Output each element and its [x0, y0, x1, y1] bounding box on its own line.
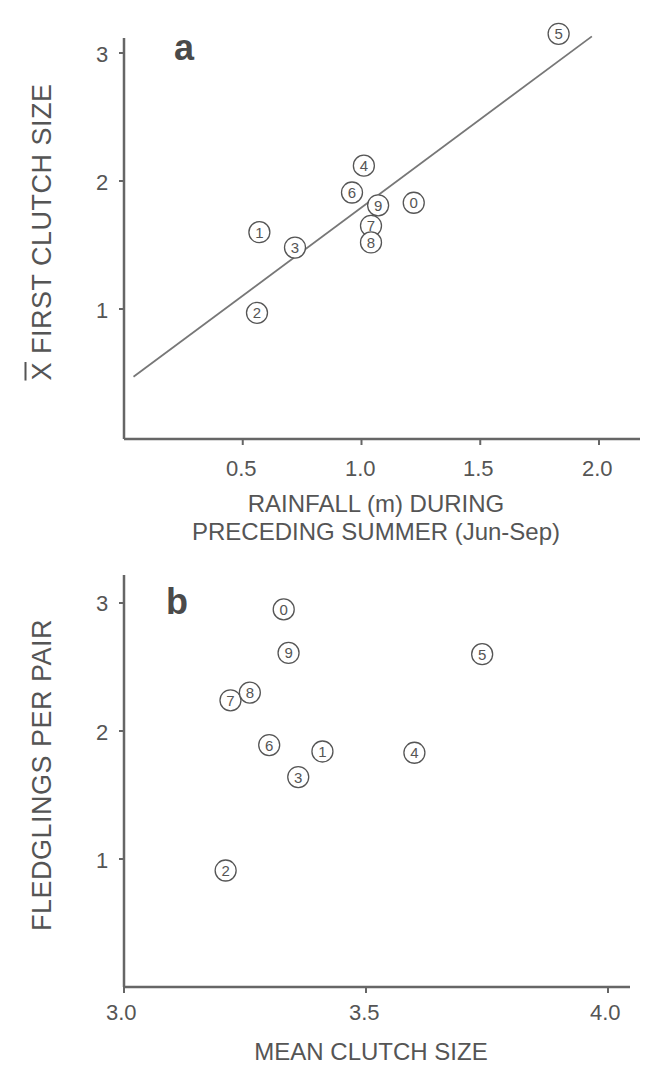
data-point-3: 3 — [285, 237, 306, 258]
chart-panel-b: 0123456789 b 1 2 3 3.0 3.5 4.0 FLEDGLING… — [0, 560, 652, 1084]
x-tick-label: 3.0 — [106, 1002, 137, 1024]
point-label: 0 — [410, 194, 418, 211]
data-point-3: 3 — [288, 767, 309, 788]
point-label: 6 — [348, 184, 356, 201]
data-point-9: 9 — [368, 195, 389, 216]
point-label: 0 — [280, 601, 288, 618]
x-bar-symbol: X — [27, 362, 57, 381]
y-tick-label: 1 — [96, 300, 108, 322]
data-point-4: 4 — [404, 742, 425, 763]
point-label: 4 — [410, 744, 418, 761]
point-label: 8 — [246, 684, 254, 701]
data-point-9: 9 — [278, 642, 299, 663]
data-point-4: 4 — [353, 155, 374, 176]
y-axis-label-b: FLEDGLINGS PER PAIR — [27, 619, 58, 931]
point-label: 8 — [367, 234, 375, 251]
x-axis-label-a: RAINFALL (m) DURING PRECEDING SUMMER (Ju… — [192, 490, 560, 546]
x-tick-label: 4.0 — [590, 1002, 621, 1024]
point-label: 5 — [478, 646, 486, 663]
point-label: 1 — [255, 224, 263, 241]
y-tick-label: 2 — [96, 172, 108, 194]
x-tick-label: 1.5 — [463, 458, 494, 480]
data-point-6: 6 — [342, 182, 363, 203]
point-label: 2 — [221, 862, 229, 879]
point-label: 3 — [291, 239, 299, 256]
data-point-5: 5 — [472, 644, 493, 665]
data-point-2: 2 — [215, 860, 236, 881]
chart-panel-a: 0123456789 a 1 2 3 0.5 1.0 1.5 2.0 X FIR… — [0, 0, 652, 560]
regression-line — [134, 36, 592, 376]
x-tick-label: 2.0 — [582, 458, 613, 480]
point-label: 6 — [265, 737, 273, 754]
point-label: 1 — [318, 743, 326, 760]
data-point-5: 5 — [548, 23, 569, 44]
x-tick-label: 1.0 — [345, 458, 376, 480]
x-tick-label: 0.5 — [226, 458, 257, 480]
y-tick-label: 3 — [96, 44, 108, 66]
scatter-plot-b: 0123456789 — [0, 560, 652, 1084]
axes-b — [119, 575, 630, 993]
x-axis-label-line1: RAINFALL (m) DURING — [192, 490, 560, 518]
point-label: 4 — [360, 157, 368, 174]
point-label: 3 — [294, 769, 302, 786]
x-axis-label-line2: PRECEDING SUMMER (Jun-Sep) — [192, 518, 560, 546]
data-point-8: 8 — [361, 232, 382, 253]
y-tick-label: 1 — [96, 850, 108, 872]
data-point-1: 1 — [249, 222, 270, 243]
panel-letter-b: b — [166, 584, 188, 620]
point-label: 5 — [554, 25, 562, 42]
x-axis-label-b: MEAN CLUTCH SIZE — [254, 1038, 487, 1066]
point-label: 9 — [374, 197, 382, 214]
data-points-b: 0123456789 — [215, 599, 493, 881]
y-tick-label: 2 — [96, 722, 108, 744]
data-point-0: 0 — [273, 599, 294, 620]
regression-line-a — [134, 36, 592, 376]
x-tick-label: 3.5 — [349, 1002, 380, 1024]
point-label: 9 — [284, 644, 292, 661]
y-tick-label: 3 — [96, 593, 108, 615]
y-axis-label-text: FIRST CLUTCH SIZE — [27, 83, 57, 362]
scatter-plot-a: 0123456789 — [0, 0, 652, 560]
panel-letter-a: a — [174, 30, 194, 66]
point-label: 2 — [253, 304, 261, 321]
data-point-6: 6 — [259, 735, 280, 756]
y-axis-label-a: X FIRST CLUTCH SIZE — [27, 83, 58, 380]
data-point-8: 8 — [239, 682, 260, 703]
point-label: 7 — [226, 692, 234, 709]
data-point-7: 7 — [220, 690, 241, 711]
data-point-0: 0 — [403, 192, 424, 213]
data-point-1: 1 — [312, 741, 333, 762]
data-point-2: 2 — [247, 302, 268, 323]
